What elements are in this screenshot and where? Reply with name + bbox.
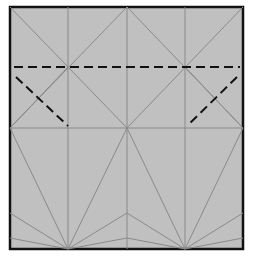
crease-pattern-diagram (0, 0, 253, 261)
